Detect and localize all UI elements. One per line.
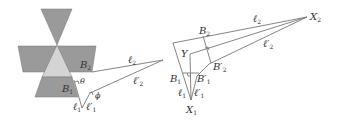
label-l1p-left: ℓ′1 (86, 101, 96, 113)
vertical-Y-X1 (190, 54, 191, 100)
label-phi: ϕ (95, 91, 101, 100)
label-l1p-right: ℓ′1 (194, 87, 204, 99)
label-B2p-right: B′2 (212, 61, 227, 73)
right-angle-mark-theta (75, 81, 79, 84)
top-triangle (41, 9, 72, 45)
label-l2p-left: ℓ′2 (133, 75, 143, 87)
label-theta: θ (80, 77, 85, 86)
left-panel: B2 B1 θ ϕ ℓ2 ℓ′2 ℓ1 ℓ′1 (18, 9, 163, 113)
label-B1-right: B1 (169, 73, 181, 85)
label-l2-left: ℓ2 (128, 54, 136, 66)
label-B1p-right: B′1 (196, 73, 210, 85)
label-X1: X1 (185, 104, 197, 116)
label-l2p-right: ℓ′2 (263, 38, 273, 50)
label-X2: X2 (309, 11, 321, 23)
label-l1-right: ℓ1 (178, 87, 186, 99)
label-B2-right: B2 (198, 25, 210, 37)
label-l1-left: ℓ1 (73, 101, 81, 113)
label-l2-right: ℓ2 (253, 13, 261, 25)
label-Y: Y (181, 48, 189, 59)
right-panel: X2 X1 Y B2 B′2 B1 B′1 ℓ2 ℓ′2 ℓ1 ℓ′1 (169, 11, 321, 116)
diagram-canvas: B2 B1 θ ϕ ℓ2 ℓ′2 ℓ1 ℓ′1 X2 X1 Y B2 B′2 B… (0, 0, 338, 120)
